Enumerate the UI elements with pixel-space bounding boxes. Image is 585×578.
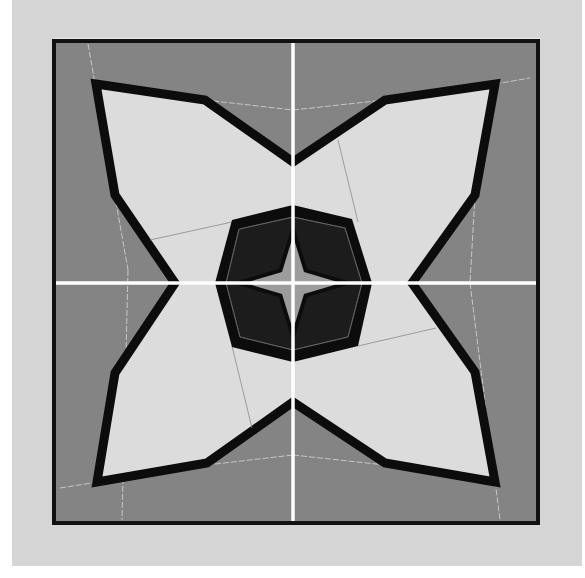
quilt-block-figure	[0, 0, 585, 578]
